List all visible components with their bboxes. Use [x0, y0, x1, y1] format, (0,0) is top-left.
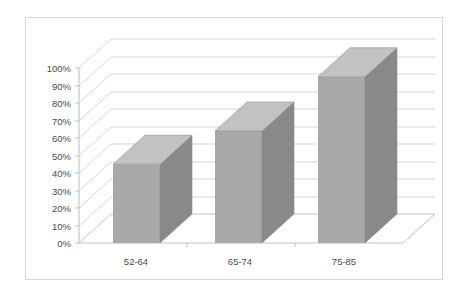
bar-column-3[interactable]: [318, 48, 397, 243]
y-tick-label: 10%: [52, 221, 72, 232]
y-tick-label: 30%: [52, 186, 72, 197]
y-tick-label: 40%: [52, 168, 72, 179]
y-tick-label: 100%: [47, 63, 72, 74]
bar-column-1[interactable]: [113, 135, 192, 243]
bar-3-front-face[interactable]: [318, 77, 365, 243]
chart-container: 100% 90% 80% 70% 60% 50% 40% 30% 20% 10%…: [0, 0, 469, 298]
x-axis-labels: 52-64 65-74 75-85: [124, 256, 356, 267]
y-tick-label: 20%: [52, 203, 72, 214]
y-tick-label: 70%: [52, 116, 72, 127]
x-tick-marks: [187, 243, 295, 247]
bar-3-side-face[interactable]: [365, 48, 397, 243]
y-tick-label: 80%: [52, 98, 72, 109]
floor-left-edge: [79, 214, 111, 243]
bar-chart-plot: 100% 90% 80% 70% 60% 50% 40% 30% 20% 10%…: [0, 0, 469, 298]
y-tick-label: 50%: [52, 151, 72, 162]
x-tick-label-3: 75-85: [332, 256, 356, 267]
bar-1-front-face[interactable]: [113, 164, 160, 243]
y-tick-label: 60%: [52, 133, 72, 144]
y-tick-label: 0%: [57, 238, 71, 249]
y-tick-label: 90%: [52, 81, 72, 92]
bar-column-2[interactable]: [215, 102, 294, 243]
floor-right-edge: [403, 214, 435, 243]
bar-2-front-face[interactable]: [215, 131, 262, 243]
x-tick-label-1: 52-64: [124, 256, 148, 267]
x-tick-label-2: 65-74: [228, 256, 252, 267]
y-tick-marks: [75, 68, 79, 243]
y-axis-labels: 100% 90% 80% 70% 60% 50% 40% 30% 20% 10%…: [47, 63, 72, 249]
